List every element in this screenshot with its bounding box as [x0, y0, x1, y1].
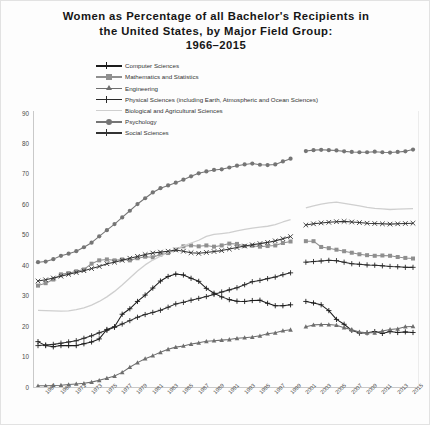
y-tick-50: 50	[9, 231, 29, 238]
y-tick-30: 30	[9, 292, 29, 299]
series-3	[35, 258, 415, 348]
series-lines	[34, 113, 419, 387]
chart-figure: Women as Percentage of all Bachelor's Re…	[0, 0, 430, 425]
y-tick-0: 0	[9, 384, 29, 391]
y-tick-80: 80	[9, 140, 29, 147]
series-6	[36, 219, 416, 283]
series-4	[38, 202, 413, 311]
plot-area	[34, 113, 419, 387]
y-tick-70: 70	[9, 170, 29, 177]
series-2	[36, 322, 416, 387]
y-tick-20: 20	[9, 323, 29, 330]
y-tick-40: 40	[9, 262, 29, 269]
series-1	[36, 239, 415, 287]
y-tick-60: 60	[9, 201, 29, 208]
y-tick-10: 10	[9, 353, 29, 360]
series-0	[35, 271, 415, 349]
y-tick-90: 90	[9, 110, 29, 117]
